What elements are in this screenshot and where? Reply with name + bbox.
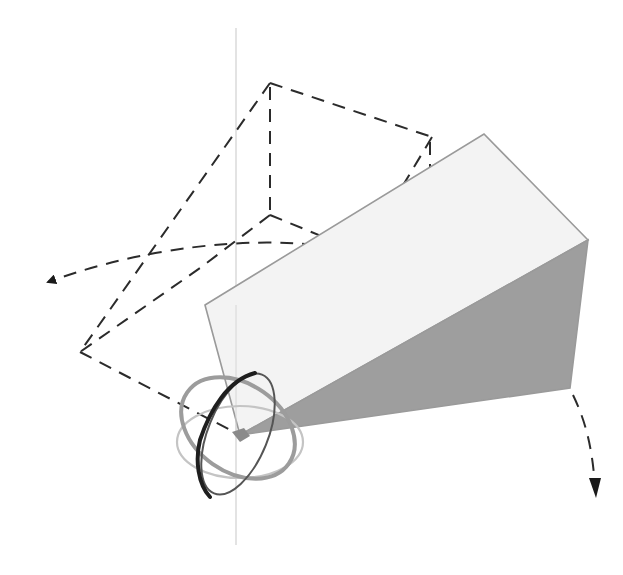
arrowhead-down-icon: [589, 478, 601, 498]
rotation-arc-right: [573, 395, 595, 486]
rotation-diagram: [0, 0, 623, 575]
diagram-canvas: [0, 0, 623, 575]
